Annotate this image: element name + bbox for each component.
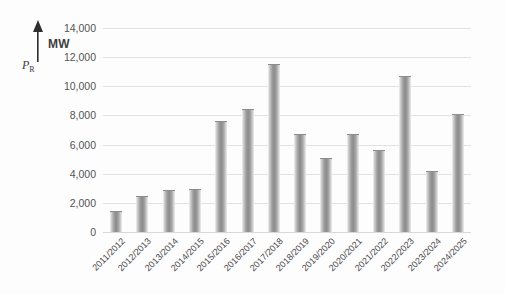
- bar: [110, 211, 122, 232]
- bar: [294, 134, 306, 232]
- y-axis-tick-label: 0: [90, 226, 96, 238]
- bar: [242, 109, 254, 232]
- bar-chart: PR MW 02,0004,0006,0008,00010,00012,0001…: [0, 0, 505, 294]
- y-axis-tick-label: 2,000: [70, 197, 96, 209]
- y-axis-tick-label: 4,000: [70, 168, 96, 180]
- y-axis-tick-label: 10,000: [64, 80, 96, 92]
- bar: [426, 171, 438, 232]
- bar: [268, 64, 280, 232]
- y-axis-tick-labels: 02,0004,0006,0008,00010,00012,00014,000: [28, 28, 96, 232]
- bar: [163, 190, 175, 232]
- bar: [347, 134, 359, 232]
- bar: [189, 189, 201, 232]
- bar: [215, 121, 227, 232]
- bar: [136, 196, 148, 232]
- bar: [373, 150, 385, 232]
- y-axis-tick-label: 6,000: [70, 139, 96, 151]
- x-axis-tick-labels: 2011/20122012/20132013/20142014/20152015…: [103, 232, 471, 292]
- bars-layer: [103, 28, 471, 232]
- y-axis-tick-label: 8,000: [70, 109, 96, 121]
- y-axis-tick-label: 12,000: [64, 51, 96, 63]
- bar: [452, 114, 464, 232]
- y-axis-tick-label: 14,000: [64, 22, 96, 34]
- bar: [320, 158, 332, 232]
- bar: [399, 76, 411, 232]
